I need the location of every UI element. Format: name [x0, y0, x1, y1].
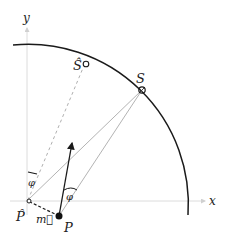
label-p-hat: P̂ — [15, 209, 25, 224]
label-p: P — [63, 220, 73, 235]
geometry-diagram: x y φ φ S Ŝ P̂ P m⃗ — [0, 0, 228, 243]
dashed-line-phat-shat — [28, 68, 83, 200]
angle-arc-phat — [28, 172, 37, 174]
label-m-vector: m⃗ — [36, 213, 53, 226]
direction-arrow — [59, 143, 72, 216]
angle-label-phat: φ — [28, 177, 35, 188]
y-axis-label: y — [22, 11, 30, 25]
point-p — [56, 213, 63, 220]
point-s-hat — [83, 61, 89, 67]
line-phat-s — [28, 90, 142, 200]
label-s: S — [136, 71, 145, 86]
x-axis-label: x — [209, 194, 216, 208]
label-s-hat: Ŝ — [73, 57, 82, 73]
angle-arc-p — [64, 188, 77, 190]
angle-label-p: φ — [66, 191, 73, 202]
point-p-hat — [27, 199, 31, 203]
